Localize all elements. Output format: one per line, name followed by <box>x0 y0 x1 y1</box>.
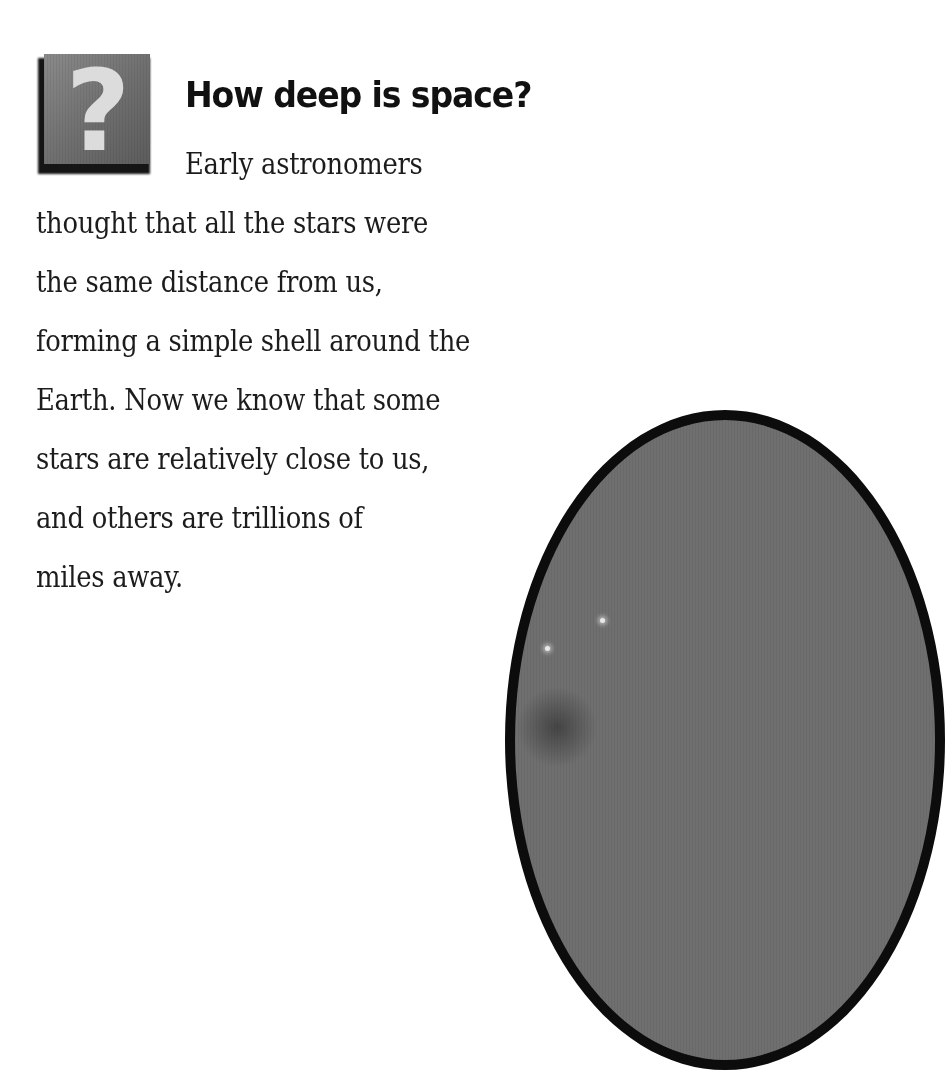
body-line-7: and others are trillions of <box>36 500 363 535</box>
question-mark-glyph: ? <box>66 55 131 167</box>
star-icon <box>600 618 605 623</box>
question-box: ? <box>34 54 150 170</box>
space-planet-illustration <box>505 410 945 1070</box>
body-line-6: stars are relatively close to us, <box>36 441 429 476</box>
body-line-4: forming a simple shell around the <box>36 323 470 358</box>
star-icon <box>545 646 550 651</box>
body-line-1: Early astronomers <box>185 146 423 181</box>
question-mark-icon: ? <box>44 54 150 164</box>
body-line-5: Earth. Now we know that some <box>36 382 440 417</box>
section-heading: How deep is space? <box>185 74 531 115</box>
body-line-3: the same distance from us, <box>36 264 383 299</box>
body-line-2: thought that all the stars were <box>36 205 428 240</box>
body-line-8: miles away. <box>36 559 183 594</box>
